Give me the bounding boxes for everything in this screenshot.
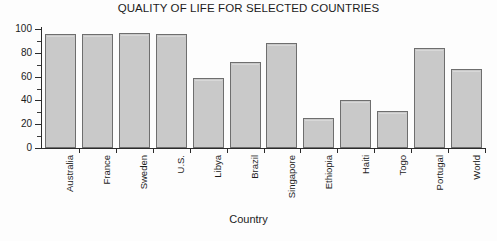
bar-top-highlight (47, 36, 74, 37)
y-axis-minor-tick (37, 136, 41, 137)
bar-top-highlight (158, 36, 185, 37)
bar (230, 62, 261, 148)
x-axis-category-label: Sweden (138, 155, 149, 189)
x-axis-category-label-text: U.S. (175, 155, 186, 173)
y-axis-minor-tick (37, 112, 41, 113)
x-axis-category-label: Ethiopia (323, 155, 334, 189)
x-axis-category-label-text: Australia (64, 155, 75, 192)
x-axis-category-label-text: Sweden (138, 155, 149, 189)
bar (156, 34, 187, 148)
x-axis-category-label: Haiti (360, 155, 371, 174)
x-axis-category-label-text: Ethiopia (323, 155, 334, 189)
bar-top-highlight (453, 71, 480, 72)
y-axis-tick-label: 80 (0, 48, 32, 58)
bar (119, 33, 150, 148)
x-axis-tick (374, 149, 375, 153)
bar (193, 78, 224, 148)
x-axis-category-label-text: Haiti (360, 155, 371, 174)
y-axis-tick-label: 20 (0, 119, 32, 129)
x-axis-tick (264, 149, 265, 153)
y-axis-tick (35, 148, 41, 149)
y-axis-tick (35, 29, 41, 30)
bar (303, 118, 334, 148)
bar (451, 69, 482, 148)
y-axis-tick-label: 100 (0, 24, 32, 34)
y-axis-tick-label: 60 (0, 72, 32, 82)
x-axis-category-label-text: France (101, 155, 112, 185)
x-axis-tick (411, 149, 412, 153)
x-axis-tick (337, 149, 338, 153)
y-axis-tick-label: 40 (0, 95, 32, 105)
bar (377, 111, 408, 148)
bar (45, 34, 76, 148)
bar-top-highlight (342, 102, 369, 103)
bar-top-highlight (379, 113, 406, 114)
x-axis-category-label: Brazil (249, 155, 260, 179)
bar-top-highlight (232, 64, 259, 65)
x-axis-category-label-text: Libya (212, 155, 223, 178)
x-axis-category-label: World (471, 155, 482, 180)
bar-top-highlight (195, 80, 222, 81)
chart-title: QUALITY OF LIFE FOR SELECTED COUNTRIES (0, 2, 497, 14)
x-axis-category-label: France (101, 155, 112, 185)
bar (82, 34, 113, 148)
y-axis-tick-label: 0 (0, 143, 32, 153)
y-axis-minor-tick (37, 41, 41, 42)
y-axis-minor-tick (37, 65, 41, 66)
bar-top-highlight (121, 35, 148, 36)
x-axis-tick (153, 149, 154, 153)
x-axis-tick (79, 149, 80, 153)
x-axis-category-label: U.S. (175, 155, 186, 173)
x-axis-tick (116, 149, 117, 153)
bar-top-highlight (84, 36, 111, 37)
x-axis-tick (227, 149, 228, 153)
x-axis-title: Country (0, 213, 497, 225)
bar (340, 100, 371, 148)
plot-area (42, 29, 485, 148)
y-axis-tick (35, 124, 41, 125)
x-axis-category-label-text: Singapore (286, 155, 297, 198)
y-axis-minor-tick (37, 89, 41, 90)
bar (414, 48, 445, 148)
y-axis-tick (35, 77, 41, 78)
y-axis-tick (35, 53, 41, 54)
x-axis-category-label: Portugal (434, 155, 445, 190)
x-axis-category-label: Libya (212, 155, 223, 178)
x-axis-tick (448, 149, 449, 153)
bar-top-highlight (305, 120, 332, 121)
x-axis-category-label: Togo (397, 155, 408, 176)
x-axis-category-label-text: Togo (397, 155, 408, 176)
bar (266, 43, 297, 148)
x-axis-category-label-text: Portugal (434, 155, 445, 190)
x-axis-tick (190, 149, 191, 153)
x-axis-tick (300, 149, 301, 153)
x-axis-tick (485, 149, 486, 153)
bar-chart-figure: QUALITY OF LIFE FOR SELECTED COUNTRIES 0… (0, 0, 497, 241)
x-axis-category-label: Australia (64, 155, 75, 192)
y-axis-tick (35, 100, 41, 101)
bar-top-highlight (268, 45, 295, 46)
x-axis-category-label-text: Brazil (249, 155, 260, 179)
bar-top-highlight (416, 50, 443, 51)
x-axis-category-label: Singapore (286, 155, 297, 198)
x-axis-category-label-text: World (471, 155, 482, 180)
